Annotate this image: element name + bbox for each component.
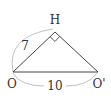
segment-oh [13, 32, 55, 72]
length-label-oo-prime: 10 [47, 79, 62, 93]
label-h: H [50, 13, 60, 27]
arc-oo-left [13, 73, 44, 86]
segment-ho-prime [55, 32, 98, 72]
label-o: O [7, 77, 17, 91]
arc-oh [12, 29, 53, 72]
triangle-diagram: H O O' 7 10 [0, 0, 111, 106]
right-angle-marker [50, 36, 60, 41]
label-o-prime: O' [92, 77, 105, 91]
length-label-oh: 7 [21, 39, 29, 53]
